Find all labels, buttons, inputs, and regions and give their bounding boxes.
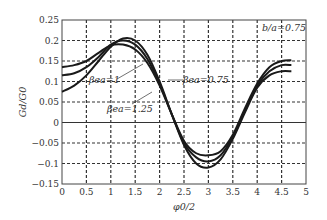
x-tick-label: 3 [206,187,212,197]
y-tick-label: 0.1 [45,77,59,87]
x-tick-label: 0 [59,187,65,197]
line-chart: −0.15−0.1−0.0500.050.10.150.20.25 00.511… [0,0,327,220]
beta-1-leader [117,64,143,79]
y-tick-label: −0.1 [37,159,59,169]
x-tick-label: 2 [157,187,163,197]
x-tick-label: 2.5 [177,187,192,197]
y-axis-ticks: −0.15−0.1−0.0500.050.10.150.20.25 [31,15,59,189]
y-tick-label: 0.15 [39,56,59,66]
x-tick-label: 5 [303,187,309,197]
x-tick-label: 4 [254,187,260,197]
y-tick-label: 0.2 [45,36,59,46]
y-axis-label: Gd/G0 [17,87,28,118]
x-tick-label: 0.5 [79,187,94,197]
y-tick-label: 0.25 [39,15,59,25]
y-tick-label: 0 [53,118,59,128]
y-tick-label: −0.15 [31,179,59,189]
x-tick-label: 1 [108,187,114,197]
x-tick-label: 4.5 [274,187,289,197]
x-axis-label: φ0/2 [173,201,195,212]
x-axis-ticks: 00.511.522.533.544.55 [59,187,309,197]
y-tick-label: −0.05 [31,138,59,148]
grid-lines [62,20,306,184]
ba-annotation: b/a=0.75 [262,22,306,33]
y-tick-label: 0.05 [39,97,59,107]
x-tick-label: 3.5 [226,187,241,197]
x-tick-label: 1.5 [128,187,143,197]
beta-075-label: βea=0.75 [182,74,229,85]
beta-125-label: βea=1.25 [106,103,153,114]
beta-1-label: βea=1 [88,74,120,85]
